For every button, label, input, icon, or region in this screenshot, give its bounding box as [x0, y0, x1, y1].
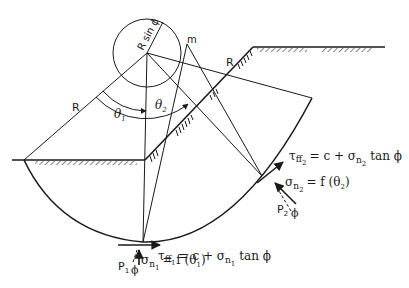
toe-hatching: [35, 161, 137, 165]
tau-ff2-equation: τff2= c + σn2tan ϕ: [289, 149, 402, 168]
theta2-label: θ2: [155, 98, 167, 114]
radius-to-point-2: [147, 53, 262, 176]
radius-right-label: R: [226, 56, 234, 69]
phi2-label: ϕ: [291, 207, 299, 220]
slope-stability-diagram: R R m R sin ϕ θ1 θ2 τff2= c + σn2tan ϕ σ…: [0, 0, 409, 288]
crest-hatching: [257, 48, 307, 52]
slip-surface-arc: [24, 98, 312, 242]
p1-label: P1: [118, 260, 129, 275]
line-m-to-point-2: [187, 44, 262, 176]
point-m-label: m: [187, 34, 197, 45]
line-m-to-point-1: [143, 44, 187, 242]
sigma-n1-equation: σn1= f (θ1): [141, 253, 206, 272]
sigma-n2-equation: σn2= f (θ2): [285, 175, 350, 194]
radius-left: [24, 53, 147, 160]
vertical-line-to-point-1: [143, 53, 147, 242]
radius-left-label: R: [72, 101, 80, 114]
p1-resultant-dashed: [133, 250, 137, 262]
p2-label: P2: [277, 203, 288, 218]
theta1-label: θ1: [114, 107, 126, 123]
crest-hatching-right: [322, 48, 372, 52]
diagram-canvas: R R m R sin ϕ θ1 θ2 τff2= c + σn2tan ϕ σ…: [0, 0, 409, 288]
phi1-label: ϕ: [131, 264, 139, 277]
